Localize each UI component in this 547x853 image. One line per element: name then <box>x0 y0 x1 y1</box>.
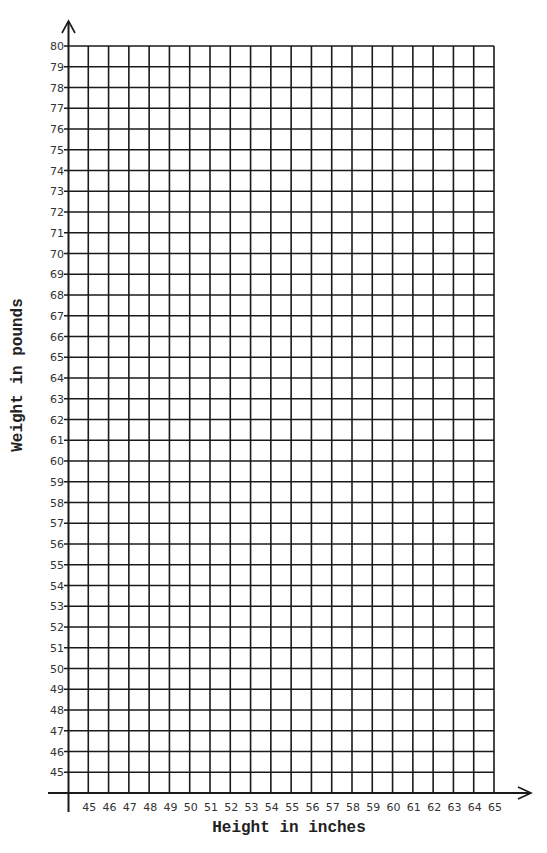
x-tick-label: 58 <box>346 801 360 814</box>
x-tick-labels: 4546474849505152535455565758596061626364… <box>82 801 502 814</box>
y-tick-label: 49 <box>50 683 64 696</box>
grid-lines <box>64 46 494 793</box>
y-tick-label: 69 <box>50 268 64 281</box>
x-tick-label: 65 <box>488 801 502 814</box>
y-tick-label: 77 <box>50 102 64 115</box>
y-tick-label: 71 <box>50 227 64 240</box>
x-tick-label: 51 <box>204 801 218 814</box>
x-tick-label: 49 <box>163 801 177 814</box>
x-tick-label: 52 <box>224 801 238 814</box>
y-tick-label: 61 <box>50 434 64 447</box>
x-tick-label: 64 <box>468 801 482 814</box>
x-tick-label: 60 <box>387 801 401 814</box>
y-tick-label: 54 <box>50 580 64 593</box>
x-tick-label: 53 <box>245 801 259 814</box>
x-tick-label: 47 <box>123 801 137 814</box>
y-tick-label: 70 <box>50 248 64 261</box>
y-tick-label: 79 <box>50 61 64 74</box>
y-tick-label: 47 <box>50 725 64 738</box>
x-tick-label: 59 <box>366 801 380 814</box>
y-tick-label: 50 <box>50 663 64 676</box>
y-tick-label: 66 <box>50 331 64 344</box>
x-tick-label: 54 <box>265 801 279 814</box>
x-tick-label: 50 <box>184 801 198 814</box>
y-tick-label: 57 <box>50 517 64 530</box>
x-tick-label: 61 <box>407 801 421 814</box>
y-tick-label: 73 <box>50 185 64 198</box>
y-axis-label: Weight in pounds <box>9 298 27 452</box>
y-tick-label: 80 <box>50 40 64 53</box>
x-axis-label: Height in inches <box>212 819 366 837</box>
x-tick-label: 63 <box>447 801 461 814</box>
y-tick-label: 45 <box>50 766 64 779</box>
y-tick-labels: 4546474849505152535455565758596061626364… <box>50 40 64 779</box>
y-tick-label: 62 <box>50 414 64 427</box>
y-tick-label: 74 <box>50 165 64 178</box>
y-tick-label: 58 <box>50 497 64 510</box>
y-tick-label: 64 <box>50 372 64 385</box>
x-tick-label: 56 <box>305 801 319 814</box>
y-tick-label: 60 <box>50 455 64 468</box>
y-tick-label: 53 <box>50 600 64 613</box>
y-tick-label: 65 <box>50 351 64 364</box>
y-tick-label: 46 <box>50 746 64 759</box>
y-tick-label: 78 <box>50 82 64 95</box>
x-tick-label: 55 <box>285 801 299 814</box>
x-tick-label: 46 <box>103 801 117 814</box>
y-tick-label: 59 <box>50 476 64 489</box>
y-tick-label: 63 <box>50 393 64 406</box>
graph-chart: 4546474849505152535455565758596061626364… <box>0 0 547 853</box>
y-tick-label: 68 <box>50 289 64 302</box>
x-tick-label: 48 <box>143 801 157 814</box>
y-tick-label: 55 <box>50 559 64 572</box>
x-tick-label: 57 <box>326 801 340 814</box>
y-tick-label: 56 <box>50 538 64 551</box>
y-tick-label: 67 <box>50 310 64 323</box>
y-tick-label: 48 <box>50 704 64 717</box>
y-tick-label: 76 <box>50 123 64 136</box>
y-tick-label: 52 <box>50 621 64 634</box>
x-tick-label: 45 <box>82 801 96 814</box>
axes <box>48 21 531 812</box>
x-tick-label: 62 <box>427 801 441 814</box>
y-tick-label: 72 <box>50 206 64 219</box>
y-tick-label: 75 <box>50 144 64 157</box>
y-tick-label: 51 <box>50 642 64 655</box>
